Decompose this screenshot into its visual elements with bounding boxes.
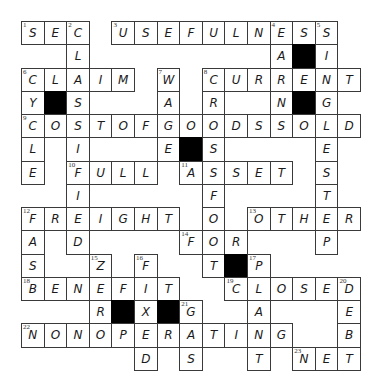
crossword-cell[interactable]: D xyxy=(224,114,248,138)
crossword-cell[interactable]: O xyxy=(270,277,294,301)
crossword-cell[interactable]: 4E xyxy=(270,21,294,45)
crossword-cell[interactable]: L xyxy=(134,161,158,185)
crossword-cell[interactable]: E xyxy=(157,21,181,45)
crossword-cell[interactable]: R xyxy=(270,68,294,92)
crossword-cell[interactable]: S xyxy=(179,347,203,371)
crossword-cell[interactable]: A xyxy=(66,68,90,92)
crossword-cell[interactable]: 23N xyxy=(292,347,316,371)
crossword-cell[interactable]: E xyxy=(247,161,271,185)
crossword-cell[interactable]: 22N xyxy=(21,323,45,347)
crossword-cell[interactable]: F xyxy=(179,21,203,45)
crossword-cell[interactable]: R xyxy=(44,207,68,231)
crossword-cell[interactable]: T xyxy=(315,184,339,208)
crossword-cell[interactable]: G xyxy=(270,323,294,347)
crossword-cell[interactable]: E xyxy=(292,68,316,92)
crossword-cell[interactable]: R xyxy=(157,323,181,347)
crossword-cell[interactable]: Y xyxy=(21,91,45,115)
crossword-cell[interactable]: H xyxy=(292,207,316,231)
crossword-cell[interactable]: O xyxy=(202,230,226,254)
crossword-cell[interactable]: T xyxy=(89,114,113,138)
crossword-cell[interactable]: O xyxy=(179,114,203,138)
crossword-cell[interactable]: I xyxy=(89,207,113,231)
crossword-cell[interactable]: S xyxy=(315,161,339,185)
crossword-cell[interactable]: 9C xyxy=(21,114,45,138)
crossword-cell[interactable]: E xyxy=(89,277,113,301)
crossword-cell[interactable]: A xyxy=(179,323,203,347)
crossword-cell[interactable]: S xyxy=(270,114,294,138)
crossword-cell[interactable]: D xyxy=(337,114,361,138)
crossword-cell[interactable]: R xyxy=(202,91,226,115)
crossword-cell[interactable]: D xyxy=(66,230,90,254)
crossword-cell[interactable]: 15Z xyxy=(89,254,113,278)
crossword-cell[interactable]: I xyxy=(66,184,90,208)
crossword-cell[interactable]: G xyxy=(157,114,181,138)
crossword-cell[interactable]: S xyxy=(292,21,316,45)
crossword-cell[interactable]: S xyxy=(292,277,316,301)
crossword-cell[interactable]: T xyxy=(202,323,226,347)
crossword-cell[interactable]: O xyxy=(202,114,226,138)
crossword-cell[interactable]: R xyxy=(337,207,361,231)
crossword-cell[interactable]: 21G xyxy=(179,300,203,324)
crossword-cell[interactable]: 7W xyxy=(157,68,181,92)
crossword-cell[interactable]: H xyxy=(134,207,158,231)
crossword-cell[interactable]: 10F xyxy=(66,161,90,185)
crossword-cell[interactable]: E xyxy=(337,300,361,324)
crossword-cell[interactable]: 19C xyxy=(224,277,248,301)
crossword-cell[interactable]: A xyxy=(270,44,294,68)
crossword-cell[interactable]: 1S xyxy=(21,21,45,45)
crossword-cell[interactable]: L xyxy=(247,277,271,301)
crossword-cell[interactable]: 13O xyxy=(247,207,271,231)
crossword-cell[interactable]: U xyxy=(224,68,248,92)
crossword-cell[interactable]: S xyxy=(66,91,90,115)
crossword-cell[interactable]: L xyxy=(21,137,45,161)
crossword-cell[interactable]: T xyxy=(157,277,181,301)
crossword-cell[interactable]: N xyxy=(247,323,271,347)
crossword-cell[interactable]: S xyxy=(224,161,248,185)
crossword-cell[interactable]: X xyxy=(134,300,158,324)
crossword-cell[interactable]: E xyxy=(21,161,45,185)
crossword-cell[interactable]: 2C xyxy=(66,21,90,45)
crossword-cell[interactable]: E xyxy=(315,207,339,231)
crossword-cell[interactable]: S xyxy=(247,114,271,138)
crossword-cell[interactable]: R xyxy=(89,300,113,324)
crossword-cell[interactable]: N xyxy=(66,323,90,347)
crossword-cell[interactable]: S xyxy=(202,161,226,185)
crossword-cell[interactable]: 6C xyxy=(21,68,45,92)
crossword-cell[interactable]: L xyxy=(315,114,339,138)
crossword-cell[interactable]: L xyxy=(111,161,135,185)
crossword-cell[interactable]: E xyxy=(134,323,158,347)
crossword-cell[interactable]: U xyxy=(202,21,226,45)
crossword-cell[interactable]: G xyxy=(315,91,339,115)
crossword-cell[interactable]: N xyxy=(66,277,90,301)
crossword-cell[interactable]: T xyxy=(337,68,361,92)
crossword-cell[interactable]: U xyxy=(89,161,113,185)
crossword-cell[interactable]: F xyxy=(134,114,158,138)
crossword-cell[interactable]: T xyxy=(270,207,294,231)
crossword-cell[interactable]: T xyxy=(270,161,294,185)
crossword-cell[interactable]: 18B xyxy=(21,277,45,301)
crossword-cell[interactable]: E xyxy=(44,277,68,301)
crossword-cell[interactable]: T xyxy=(337,347,361,371)
crossword-cell[interactable]: E xyxy=(44,21,68,45)
crossword-cell[interactable]: T xyxy=(157,207,181,231)
crossword-cell[interactable]: N xyxy=(247,21,271,45)
crossword-cell[interactable]: I xyxy=(89,68,113,92)
crossword-cell[interactable]: T xyxy=(247,347,271,371)
crossword-cell[interactable]: B xyxy=(337,323,361,347)
crossword-cell[interactable]: L xyxy=(44,68,68,92)
crossword-cell[interactable]: I xyxy=(134,277,158,301)
crossword-cell[interactable]: F xyxy=(202,184,226,208)
crossword-cell[interactable]: L xyxy=(66,44,90,68)
crossword-cell[interactable]: 12F xyxy=(21,207,45,231)
crossword-cell[interactable]: 11A xyxy=(179,161,203,185)
crossword-cell[interactable]: O xyxy=(202,207,226,231)
crossword-cell[interactable]: R xyxy=(247,68,271,92)
crossword-cell[interactable]: G xyxy=(111,207,135,231)
crossword-cell[interactable]: E xyxy=(315,277,339,301)
crossword-cell[interactable]: S xyxy=(134,21,158,45)
crossword-cell[interactable]: S xyxy=(21,254,45,278)
crossword-cell[interactable]: L xyxy=(224,21,248,45)
crossword-cell[interactable]: D xyxy=(134,347,158,371)
crossword-cell[interactable]: 17P xyxy=(247,254,271,278)
crossword-cell[interactable]: S xyxy=(66,114,90,138)
